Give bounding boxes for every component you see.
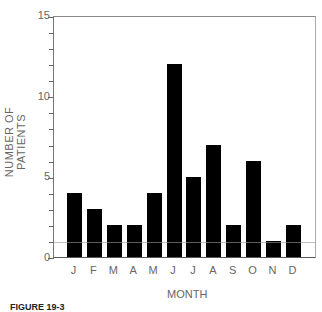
y-tick-mark [49, 113, 54, 114]
figure-caption: FIGURE 19-3 [10, 302, 65, 312]
x-tick-label: M [145, 264, 161, 276]
y-axis-title: NUMBER OF PATIENTS [3, 77, 27, 207]
bar [67, 193, 82, 257]
y-tick-mark [49, 146, 54, 147]
x-tick-label: O [245, 264, 261, 276]
y-tick-mark [49, 226, 54, 227]
plot-area [53, 16, 316, 258]
y-tick-mark [48, 17, 54, 18]
x-tick-label: F [85, 264, 101, 276]
bar [147, 193, 162, 257]
y-tick-label-5: 5 [30, 170, 50, 182]
bar [266, 241, 281, 257]
x-tick-label: D [284, 264, 300, 276]
x-tick-label: M [105, 264, 121, 276]
y-tick-label-10: 10 [30, 90, 50, 102]
faint-horizontal-line [54, 242, 315, 243]
y-tick-mark [49, 129, 54, 130]
x-tick-label: A [205, 264, 221, 276]
y-tick-mark [49, 49, 54, 50]
bar [167, 64, 182, 257]
y-tick-label-0: 0 [30, 251, 50, 263]
y-tick-mark [49, 65, 54, 66]
y-tick-mark [48, 178, 54, 179]
x-tick-label: A [125, 264, 141, 276]
x-tick-label: J [66, 264, 82, 276]
x-tick-label: J [165, 264, 181, 276]
y-tick-mark [49, 162, 54, 163]
y-tick-mark [48, 97, 54, 98]
y-tick-label-15: 15 [30, 9, 50, 21]
x-axis-title: MONTH [167, 288, 207, 300]
y-tick-mark [49, 81, 54, 82]
bar [186, 177, 201, 257]
y-tick-mark [48, 258, 54, 259]
y-tick-mark [49, 210, 54, 211]
bar [87, 209, 102, 257]
x-tick-label: J [185, 264, 201, 276]
bar [206, 145, 221, 257]
y-tick-mark [49, 194, 54, 195]
x-tick-label: N [265, 264, 281, 276]
y-tick-mark [49, 33, 54, 34]
x-tick-label: S [225, 264, 241, 276]
